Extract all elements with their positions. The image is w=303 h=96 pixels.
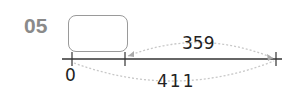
number-line-diagram [0,0,303,96]
top-arc-arrow-left-icon [128,51,134,57]
top-arc-value: 359 [182,33,214,53]
bottom-arc-value: 411 [157,71,195,91]
zero-label: 0 [65,65,76,85]
top-arc-arrow-right-icon [267,54,273,61]
